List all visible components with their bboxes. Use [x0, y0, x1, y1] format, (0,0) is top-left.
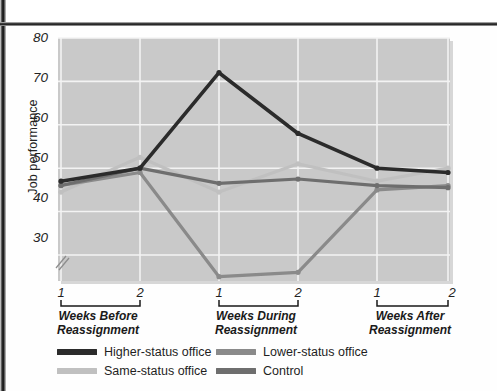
data-point [295, 270, 300, 275]
x-group-label-before-line2: Reassignment [38, 324, 158, 338]
x-group-label-after: Weeks After Reassignment [350, 310, 470, 337]
legend-label-same-status-office: Same-status office [104, 364, 207, 378]
x-tick-before-2: 2 [132, 285, 148, 300]
group-bracket-2 [377, 300, 448, 306]
data-point [374, 166, 379, 171]
group-bracket-1 [219, 300, 298, 306]
legend-swatch-lower-status-office [216, 349, 256, 355]
legend-swatch-higher-status-office [57, 349, 97, 355]
data-point [137, 155, 142, 160]
legend-label-lower-status-office: Lower-status office [263, 345, 368, 359]
data-point [58, 179, 63, 184]
data-point [374, 183, 379, 188]
group-bracket-0 [61, 300, 140, 306]
legend-label-higher-status-office: Higher-status office [104, 345, 211, 359]
legend-item-higher-status-office[interactable]: Higher-status office [57, 345, 211, 359]
legend-item-same-status-office[interactable]: Same-status office [57, 364, 207, 378]
legend-item-lower-status-office[interactable]: Lower-status office [216, 345, 368, 359]
data-point [295, 131, 300, 136]
legend-swatch-same-status-office [57, 368, 97, 374]
x-group-label-during-line1: Weeks During [196, 310, 316, 324]
legend-label-control: Control [263, 364, 303, 378]
data-point [295, 176, 300, 181]
x-group-brackets [61, 300, 448, 306]
x-group-label-during: Weeks During Reassignment [196, 310, 316, 337]
plot-panel [58, 38, 450, 281]
data-point [137, 166, 142, 171]
x-tick-before-1: 1 [53, 285, 69, 300]
data-point [216, 274, 221, 279]
x-group-label-during-line2: Reassignment [196, 324, 316, 338]
figure-container: Job performance 80 70 60 50 40 30 1 2 1 … [0, 0, 497, 391]
legend-item-control[interactable]: Control [216, 364, 303, 378]
data-point [295, 161, 300, 166]
data-point [216, 189, 221, 194]
x-group-label-before: Weeks Before Reassignment [38, 310, 158, 337]
legend-swatch-control [216, 368, 256, 374]
x-group-label-after-line1: Weeks After [350, 310, 470, 324]
data-point [216, 70, 221, 75]
data-point [216, 181, 221, 186]
x-tick-after-1: 1 [369, 285, 385, 300]
x-tick-after-2: 2 [444, 285, 460, 300]
x-group-label-before-line1: Weeks Before [38, 310, 158, 324]
x-tick-during-1: 1 [211, 285, 227, 300]
data-point [445, 170, 450, 175]
data-point [445, 185, 450, 190]
x-tick-during-2: 2 [290, 285, 306, 300]
x-group-label-after-line2: Reassignment [350, 324, 470, 338]
data-point [58, 189, 63, 194]
